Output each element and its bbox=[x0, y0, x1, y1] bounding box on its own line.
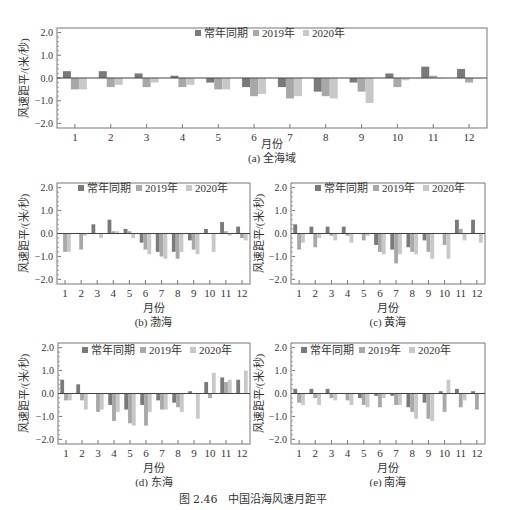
bar bbox=[236, 227, 240, 234]
y-axis-label: 风速距平/(米/秒) bbox=[17, 193, 31, 273]
bar bbox=[144, 394, 148, 426]
bar bbox=[76, 384, 80, 393]
bar bbox=[124, 229, 128, 234]
bar bbox=[220, 222, 224, 233]
bar bbox=[112, 394, 116, 422]
x-tick-label: 7 bbox=[287, 131, 293, 143]
chart-subtitle: (a) 全海域 bbox=[248, 151, 296, 165]
legend-item: 2020年 bbox=[432, 181, 465, 194]
x-tick-label: 3 bbox=[144, 131, 150, 143]
bar bbox=[313, 234, 317, 248]
bar bbox=[479, 234, 483, 243]
bar bbox=[228, 380, 232, 394]
x-tick-label: 1 bbox=[296, 287, 302, 299]
bar bbox=[244, 234, 248, 241]
bar bbox=[385, 73, 393, 78]
bar bbox=[206, 78, 214, 83]
bar bbox=[459, 394, 463, 408]
x-tick-label: 2 bbox=[313, 287, 319, 299]
bar bbox=[172, 234, 176, 252]
x-tick-label: 1 bbox=[62, 287, 68, 299]
bar bbox=[68, 394, 72, 401]
x-tick-label: 9 bbox=[191, 447, 197, 459]
chart-d-east-china-sea: 2.01.00.0−1.0−2.0123456789101112常年同期2019… bbox=[0, 337, 253, 487]
bar bbox=[414, 234, 418, 255]
x-tick-label: 4 bbox=[111, 447, 117, 459]
bar bbox=[224, 382, 228, 393]
bar bbox=[382, 394, 386, 399]
bar bbox=[293, 224, 297, 233]
x-tick-label: 7 bbox=[159, 287, 165, 299]
y-tick-label: −2.0 bbox=[35, 118, 53, 129]
bar bbox=[326, 227, 330, 234]
bar bbox=[60, 380, 64, 394]
y-tick-label: 2.0 bbox=[275, 182, 288, 193]
y-tick-label: 0.0 bbox=[275, 388, 288, 399]
bar bbox=[80, 394, 84, 401]
legend-item: 常年同期 bbox=[91, 343, 135, 356]
legend-item: 2020年 bbox=[195, 181, 228, 194]
bar bbox=[393, 78, 401, 87]
legend-item: 常年同期 bbox=[87, 181, 131, 194]
bar bbox=[208, 394, 212, 399]
bar bbox=[421, 67, 429, 78]
bar bbox=[108, 394, 112, 405]
bar bbox=[156, 394, 160, 401]
x-tick-label: 7 bbox=[393, 287, 399, 299]
x-tick-label: 9 bbox=[359, 131, 365, 143]
bar bbox=[67, 234, 71, 252]
bar bbox=[212, 373, 216, 394]
x-tick-label: 3 bbox=[95, 447, 101, 459]
bar bbox=[84, 394, 88, 410]
bar bbox=[140, 394, 144, 405]
x-tick-label: 3 bbox=[329, 287, 335, 299]
legend-item: 2019年 bbox=[382, 181, 415, 194]
bar bbox=[366, 78, 374, 103]
bar bbox=[79, 234, 83, 250]
bar bbox=[394, 234, 398, 264]
bar bbox=[333, 234, 337, 241]
y-tick-label: −1.0 bbox=[269, 251, 287, 262]
x-tick-label: 10 bbox=[439, 287, 451, 299]
bar bbox=[258, 78, 266, 94]
bar bbox=[196, 234, 200, 255]
bar-chart-svg: 2.01.00.0−1.0−2.0123456789101112常年同期2019… bbox=[0, 177, 253, 337]
bar bbox=[362, 234, 366, 241]
x-tick-label: 9 bbox=[426, 447, 432, 459]
x-tick-label: 11 bbox=[221, 287, 232, 299]
x-tick-label: 2 bbox=[79, 447, 85, 459]
bar bbox=[309, 227, 313, 234]
bar bbox=[346, 394, 350, 401]
bar bbox=[286, 78, 294, 98]
x-tick-label: 2 bbox=[78, 287, 84, 299]
bar bbox=[430, 234, 434, 259]
legend-item: 2019年 bbox=[262, 26, 295, 39]
chart-b-bohai: 2.01.00.0−1.0−2.0123456789101112常年同期2019… bbox=[0, 177, 253, 337]
y-tick-label: −1.0 bbox=[35, 251, 53, 262]
y-tick-label: 2.0 bbox=[275, 342, 288, 353]
bar-chart-svg: 2.01.00.0−1.0−2.0123456789101112常年同期2019… bbox=[0, 15, 506, 175]
bar bbox=[322, 78, 330, 96]
bar bbox=[107, 78, 115, 87]
bar bbox=[100, 394, 104, 410]
x-tick-label: 2 bbox=[108, 131, 114, 143]
x-tick-label: 10 bbox=[439, 447, 451, 459]
bar bbox=[151, 78, 159, 83]
bar bbox=[160, 234, 164, 257]
bar bbox=[459, 229, 463, 234]
bar bbox=[426, 394, 430, 419]
legend-item: 2019年 bbox=[368, 343, 401, 356]
figure-caption: 图 2.46 中国沿海风速月距平 bbox=[0, 490, 506, 506]
bar bbox=[330, 78, 338, 98]
bar bbox=[140, 234, 144, 243]
bar bbox=[293, 389, 297, 394]
bar bbox=[465, 78, 473, 83]
x-tick-label: 4 bbox=[111, 287, 117, 299]
bar bbox=[79, 78, 87, 89]
bar bbox=[63, 234, 67, 252]
bar bbox=[204, 229, 208, 234]
y-tick-label: 1.0 bbox=[42, 365, 55, 376]
bar bbox=[108, 220, 112, 234]
x-tick-label: 11 bbox=[455, 447, 466, 459]
bar bbox=[378, 234, 382, 252]
